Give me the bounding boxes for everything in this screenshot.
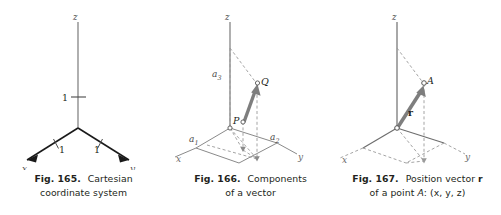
figure-167-caption: Fig. 167.Position vector r of a point A:… [334,172,501,199]
base-edge-left [363,148,406,163]
y-axis-label: y [129,164,136,170]
figure-sheet: z 1 1 1 x y Fig. 165.Cartesian coordinat… [0,0,501,215]
y-axis-label: y [297,152,304,162]
figure-166-caption-line2: of a vector [167,186,334,200]
y-axis-line [397,128,444,143]
z-unit-label: 1 [62,92,68,103]
figure-166-drawing: z x y a3 a1 a2 P Q [167,0,334,170]
x-axis-label: x [342,155,347,165]
figure-165-number: Fig. 165. [34,173,80,184]
figure-167-caption-coords: : (x, y, z) [424,187,466,198]
figure-167-caption-line2: of a point A: (x, y, z) [334,186,501,200]
y-axis-dashed-extension [444,143,465,154]
point-p-marker [241,120,245,124]
y-axis-line [277,143,297,154]
component-a1-label: a1 [189,134,198,147]
x-axis-line [363,128,397,148]
z-axis-label: z [224,12,230,22]
y-axis-label: y [464,152,471,162]
figure-165-title: Cartesian [81,173,133,184]
figure-165-panel: z 1 1 1 x y Fig. 165.Cartesian coordinat… [0,0,167,215]
x-axis-label: x [176,154,181,164]
figure-166-panel: z x y a3 a1 a2 P Q Fig. 166.Components o… [167,0,334,215]
z-axis-label: z [391,12,397,22]
x-axis-label: x [22,164,27,170]
point-a-marker [422,81,427,86]
figure-165-caption: Fig. 165.Cartesian coordinate system [0,172,167,199]
x-axis-line [27,128,78,160]
figure-167-title-vector: r [478,173,483,184]
dashed-a3-to-q [230,48,257,84]
figure-167-drawing: z x y A r [334,0,501,170]
dashed-z-to-a [397,48,424,84]
figure-165-drawing: z 1 1 1 x y [0,0,167,170]
vector-r-label: r [408,107,414,118]
origin-marker [395,126,400,131]
figure-166-number: Fig. 166. [194,173,240,184]
point-q-marker [255,81,259,85]
figure-167-number: Fig. 167. [352,173,398,184]
figure-166-caption: Fig. 166.Components of a vector [167,172,334,199]
figure-165-caption-line2: coordinate system [0,186,167,200]
point-a-label: A [426,75,434,86]
y-unit-label: 1 [94,144,100,155]
y-axis-line [78,128,129,160]
projection-arrowhead [421,158,427,163]
figure-167-panel: z x y A r Fig. 167.Position vector r of … [334,0,501,215]
figure-166-title: Components [241,173,307,184]
point-q-label: Q [261,76,269,87]
component-a3-label: a3 [212,69,221,82]
x-unit-label: 1 [59,144,65,155]
z-axis-label: z [72,12,78,22]
dashed-component-a2-guide [207,145,257,159]
point-p-label: P [232,115,240,126]
origin-marker [228,126,232,130]
component-a2-label: a2 [270,132,279,145]
vector-pq-shaft [244,90,256,122]
figure-167-caption-prefix: of a point [370,187,418,198]
figure-167-title: Position vector [399,173,475,184]
